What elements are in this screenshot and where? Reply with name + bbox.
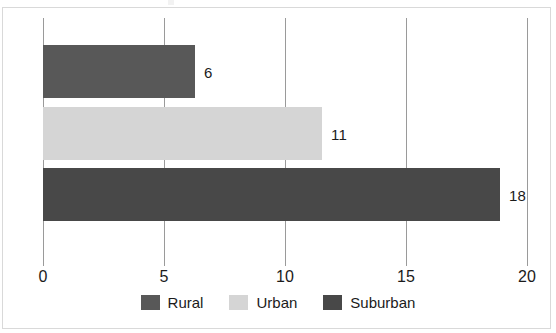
x-tick-label-5: 5 xyxy=(160,268,169,286)
x-tick-label-0: 0 xyxy=(39,268,48,286)
bar-rural[interactable] xyxy=(43,45,195,98)
legend-label-urban: Urban xyxy=(256,294,297,311)
legend-swatch-rural xyxy=(141,295,160,310)
bar-value-suburban: 18 xyxy=(509,186,526,203)
plot-area: 6 11 18 xyxy=(43,18,527,266)
legend-item-urban[interactable]: Urban xyxy=(229,294,297,311)
x-tick-label-15: 15 xyxy=(397,268,415,286)
legend-label-rural: Rural xyxy=(168,294,204,311)
legend-swatch-urban xyxy=(229,295,248,310)
legend-item-suburban[interactable]: Suburban xyxy=(323,294,415,311)
bar-urban[interactable] xyxy=(43,107,322,160)
gridline-20 xyxy=(527,18,528,266)
x-tick-label-20: 20 xyxy=(518,268,536,286)
x-tick-label-10: 10 xyxy=(276,268,294,286)
bar-value-rural: 6 xyxy=(204,63,213,80)
legend-swatch-suburban xyxy=(323,295,342,310)
legend-item-rural[interactable]: Rural xyxy=(141,294,204,311)
bar-value-urban: 11 xyxy=(331,125,347,142)
gridline-15 xyxy=(406,18,407,266)
bar-chart-figure: 6 11 18 0 5 10 15 20 Rural Urban Suburb xyxy=(0,0,556,333)
top-edge-artifact xyxy=(168,0,174,5)
chart-legend: Rural Urban Suburban xyxy=(0,294,556,311)
x-axis-tick-labels: 0 5 10 15 20 xyxy=(43,268,527,292)
legend-label-suburban: Suburban xyxy=(350,294,415,311)
bar-suburban[interactable] xyxy=(43,168,500,221)
